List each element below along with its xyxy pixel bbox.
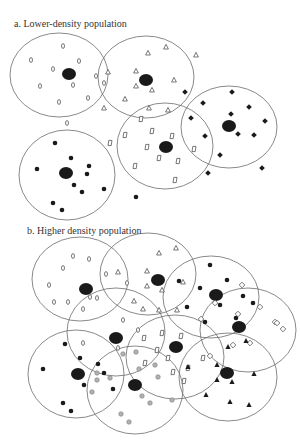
diamond-marker (217, 152, 223, 158)
diamond-marker (262, 118, 268, 124)
oval-marker (62, 44, 65, 49)
grey-dot-marker (95, 371, 100, 376)
dot-marker (111, 387, 116, 392)
oval-marker (52, 67, 55, 72)
diamond-marker (251, 132, 257, 138)
oval-marker (87, 96, 90, 101)
dot-marker (241, 294, 246, 299)
center-individual (79, 283, 93, 295)
grey-dot-marker (127, 420, 132, 425)
triangle-marker (166, 107, 171, 112)
open-diamond-marker (280, 326, 286, 332)
grey-dot-marker (108, 376, 113, 381)
filled-triangle-marker (214, 377, 219, 382)
diamond-marker (182, 89, 188, 95)
parallelogram-marker (160, 330, 164, 335)
parallelogram-marker (173, 177, 177, 182)
grey-dot-marker (134, 350, 139, 355)
parallelogram-marker (150, 128, 154, 133)
oval-marker (62, 266, 65, 271)
dot-marker (198, 286, 203, 291)
dot-marker (35, 167, 40, 172)
center-individual (128, 379, 142, 391)
parallelogram-marker (179, 333, 183, 338)
oval-marker (67, 300, 70, 305)
grey-dot-marker (156, 375, 161, 380)
filled-triangle-marker (246, 402, 251, 407)
oval-marker (117, 346, 120, 351)
neighborhood-circle (32, 237, 128, 321)
oval-marker (137, 328, 140, 333)
triangle-marker (106, 69, 111, 74)
grey-dot-marker (95, 378, 100, 383)
population-diagram (0, 0, 300, 444)
parallelogram-marker (133, 163, 137, 168)
dot-marker (69, 409, 74, 414)
dot-marker (225, 278, 230, 283)
parallelogram-marker (171, 369, 175, 374)
diamond-marker (188, 115, 194, 121)
center-individual (139, 74, 153, 86)
parallelogram-marker (176, 158, 180, 163)
triangle-marker (146, 50, 151, 55)
parallelogram-marker (157, 155, 161, 160)
grey-dot-marker (119, 412, 124, 417)
dot-marker (102, 371, 107, 376)
center-individual (159, 141, 173, 153)
triangle-marker (141, 306, 146, 311)
diamond-marker (200, 100, 206, 106)
grey-dot-marker (153, 363, 158, 368)
oval-marker (72, 254, 75, 259)
dot-marker (72, 183, 77, 188)
triangle-marker (102, 105, 107, 110)
triangle-marker (145, 283, 150, 288)
grey-dot-marker (170, 398, 175, 403)
oval-marker (82, 307, 85, 312)
dot-marker (61, 401, 66, 406)
triangle-marker (172, 77, 177, 82)
dot-marker (63, 342, 68, 347)
panel-b-higher-density (28, 233, 296, 434)
filled-triangle-marker (225, 344, 230, 349)
triangle-marker (134, 68, 139, 73)
dot-marker (102, 187, 107, 192)
diamond-marker (235, 131, 241, 137)
triangle-marker (150, 87, 155, 92)
grey-dot-marker (121, 352, 126, 357)
dot-marker (218, 303, 223, 308)
diamond-marker (228, 111, 234, 117)
parallelogram-marker (143, 360, 147, 365)
triangle-marker (181, 279, 186, 284)
grey-dot-marker (90, 390, 95, 395)
filled-triangle-marker (229, 379, 234, 384)
oval-marker (78, 59, 81, 64)
dot-marker (41, 367, 46, 372)
oval-marker (82, 341, 85, 346)
dot-marker (60, 208, 65, 213)
parallelogram-marker (201, 355, 205, 360)
oval-marker (30, 58, 33, 63)
center-individual (62, 68, 76, 80)
triangle-marker (174, 245, 179, 250)
grey-dot-marker (140, 394, 145, 399)
parallelogram-marker (145, 144, 149, 149)
triangle-marker (116, 269, 121, 274)
oval-marker (48, 283, 51, 288)
parallelogram-marker (155, 347, 159, 352)
center-individual (109, 332, 123, 344)
oval-marker (39, 84, 42, 89)
parallelogram-marker (192, 146, 196, 151)
dot-marker (69, 156, 74, 161)
dot-marker (134, 195, 139, 200)
oval-marker (96, 296, 99, 301)
grey-dot-marker (137, 367, 142, 372)
dot-marker (53, 141, 58, 146)
parallelogram-marker (123, 132, 127, 137)
neighborhood-circle (100, 233, 196, 315)
dot-marker (85, 172, 90, 177)
center-individual (220, 367, 234, 379)
oval-marker (105, 272, 108, 277)
parallelogram-marker (142, 335, 146, 340)
triangle-marker (164, 44, 169, 49)
filled-triangle-marker (203, 392, 208, 397)
